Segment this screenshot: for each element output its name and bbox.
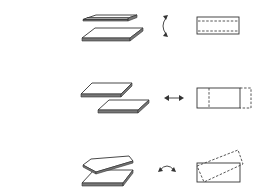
double-horizontal-arrow-icon — [164, 95, 184, 101]
slide-plan-view — [197, 88, 251, 108]
twist-plates — [82, 156, 133, 186]
diagram-canvas — [0, 0, 266, 194]
roll-plates — [82, 15, 143, 41]
curved-double-arrow-icon — [158, 166, 176, 172]
twist-plan-view — [197, 150, 243, 182]
slide-plates — [81, 83, 149, 113]
roll-plan-view — [197, 17, 239, 34]
curved-vertical-arrow-icon — [163, 15, 168, 37]
